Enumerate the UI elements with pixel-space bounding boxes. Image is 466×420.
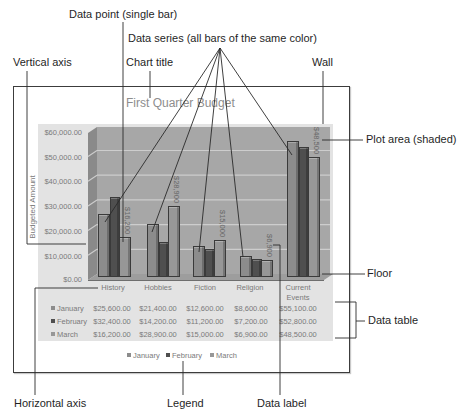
callout-floor: Floor (367, 267, 392, 280)
annotated-chart-figure: $16,200$28,900$15,000$6,900$48,500 First… (0, 0, 466, 420)
callout-wall: Wall (312, 56, 333, 69)
callout-horizontal-axis: Horizontal axis (14, 397, 86, 410)
bracket-data-table (335, 302, 365, 338)
leader-lines-data-series (105, 48, 292, 257)
leader-line-vertical-axis (27, 71, 86, 244)
callout-legend: Legend (167, 397, 204, 410)
callout-chart-title: Chart title (126, 56, 173, 69)
callout-vertical-axis: Vertical axis (13, 56, 72, 69)
callout-data-point: Data point (single bar) (69, 8, 177, 21)
leader-line-horizontal-axis (35, 288, 98, 395)
callout-plot-area: Plot area (shaded) (366, 133, 457, 146)
callout-data-table: Data table (368, 314, 418, 327)
leader-line-data-label (273, 245, 280, 395)
callout-data-label: Data label (257, 397, 307, 410)
callout-data-series: Data series (all bars of the same color) (128, 32, 317, 45)
